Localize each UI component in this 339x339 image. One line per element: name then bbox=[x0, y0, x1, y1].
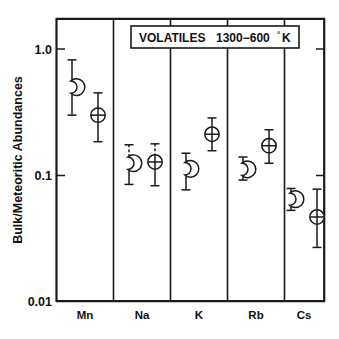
x-label-cs: Cs bbox=[297, 309, 312, 321]
y-tick-label-0p01: 0.01 bbox=[28, 295, 52, 309]
title-box: VOLATILES 1300−600 ° K bbox=[131, 26, 299, 48]
moon-marker-icon bbox=[290, 191, 304, 208]
datapoint-rb-moon bbox=[239, 157, 256, 180]
moon-marker-icon bbox=[242, 161, 256, 178]
title-range-label: 1300−600 bbox=[216, 31, 270, 45]
datapoint-k-moon bbox=[182, 153, 199, 190]
datapoint-na-earth bbox=[148, 144, 162, 186]
moon-marker-icon bbox=[128, 155, 142, 172]
degree-symbol: ° bbox=[277, 30, 280, 39]
datapoint-k-earth bbox=[205, 118, 219, 151]
datapoint-rb-earth bbox=[262, 130, 276, 163]
figure-container: 1.0 0.1 0.01 Bulk/Meteoritic Abundances … bbox=[0, 0, 339, 339]
x-label-k: K bbox=[195, 309, 204, 321]
x-label-mn: Mn bbox=[77, 309, 94, 321]
title-main-label: VOLATILES bbox=[139, 31, 205, 45]
data-points-layer bbox=[68, 60, 325, 248]
datapoint-na-moon bbox=[125, 145, 142, 185]
datapoint-mn-moon bbox=[68, 60, 85, 115]
x-label-rb: Rb bbox=[248, 309, 263, 321]
moon-marker-icon bbox=[185, 160, 199, 177]
y-tick-label-1p0: 1.0 bbox=[35, 43, 52, 57]
datapoint-cs-moon bbox=[287, 188, 304, 210]
x-label-na: Na bbox=[135, 309, 150, 321]
y-axis-title: Bulk/Meteoritic Abundances bbox=[11, 76, 25, 244]
abundance-scatter-chart: 1.0 0.1 0.01 Bulk/Meteoritic Abundances … bbox=[0, 0, 339, 339]
datapoint-mn-earth bbox=[91, 93, 105, 142]
y-tick-label-0p1: 0.1 bbox=[35, 169, 52, 183]
title-unit-label: K bbox=[282, 31, 291, 45]
moon-marker-icon bbox=[71, 79, 85, 96]
datapoint-cs-earth bbox=[310, 189, 324, 247]
